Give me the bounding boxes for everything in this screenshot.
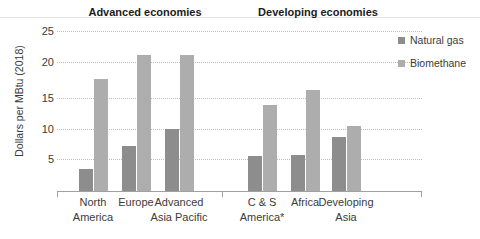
x-axis-line xyxy=(57,191,422,192)
bar-biomethane xyxy=(263,105,277,191)
category-label-line1: Advanced xyxy=(134,195,224,210)
bar-natural-gas xyxy=(248,156,262,191)
bar-natural-gas xyxy=(291,155,305,191)
bar-natural-gas xyxy=(122,146,136,191)
bars-layer xyxy=(57,25,422,191)
legend-item-natural-gas[interactable]: Natural gas xyxy=(398,34,466,46)
bar-natural-gas xyxy=(79,169,93,191)
y-axis-title: Dollars per MBtu (2018) xyxy=(13,16,25,186)
x-axis-tick-right xyxy=(421,191,422,197)
bar-natural-gas xyxy=(165,129,179,191)
category-label-line1: Developing xyxy=(301,195,391,210)
legend-label-natural-gas: Natural gas xyxy=(410,34,464,46)
category-label-line2: America* xyxy=(217,210,307,225)
y-tick-label-10: 10 xyxy=(42,123,54,135)
category-label: DevelopingAsia xyxy=(301,195,391,225)
biomethane-cost-chart: Dollars per MBtu (2018) 25 20 15 10 5 Ad… xyxy=(0,0,480,239)
bar-biomethane xyxy=(306,90,320,191)
legend-swatch-icon-natural-gas xyxy=(398,37,405,44)
category-label-line2: America xyxy=(48,210,138,225)
category-label: AdvancedAsia Pacific xyxy=(134,195,224,225)
bar-biomethane xyxy=(180,55,194,191)
y-axis-tick-labels: 25 20 15 10 5 xyxy=(26,25,54,191)
y-tick-label-20: 20 xyxy=(42,56,54,68)
y-tick-label-15: 15 xyxy=(42,92,54,104)
legend-item-biomethane[interactable]: Biomethane xyxy=(398,57,466,69)
group-title-advanced: Advanced economies xyxy=(70,6,220,18)
bar-biomethane xyxy=(94,79,108,191)
legend-label-biomethane: Biomethane xyxy=(410,57,466,69)
category-label-line2: Asia Pacific xyxy=(134,210,224,225)
category-label-line2: Asia xyxy=(301,210,391,225)
y-tick-label-25: 25 xyxy=(42,25,54,37)
legend-swatch-icon-biomethane xyxy=(398,60,405,67)
group-title-developing: Developing economies xyxy=(238,6,398,18)
bar-natural-gas xyxy=(332,137,346,191)
bar-biomethane xyxy=(137,55,151,191)
bar-biomethane xyxy=(347,126,361,191)
legend: Natural gas Biomethane xyxy=(398,34,466,80)
y-tick-label-5: 5 xyxy=(48,153,54,165)
